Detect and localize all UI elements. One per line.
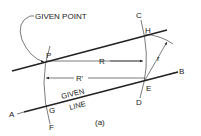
label-R: R — [99, 57, 105, 66]
label-D: D — [136, 98, 142, 107]
diagram-canvas: GIVEN POINT P R R' r C H E D B A G F GIV… — [0, 0, 201, 136]
given-point-leader — [20, 16, 44, 62]
parallel-line — [12, 30, 167, 71]
label-H: H — [145, 26, 151, 35]
leader-A — [17, 112, 24, 114]
label-given-point: GIVEN POINT — [35, 12, 87, 21]
label-C: C — [136, 11, 142, 20]
label-G: G — [49, 106, 55, 115]
label-P: P — [46, 51, 51, 60]
line-ED — [140, 82, 144, 98]
dimension-r — [145, 42, 167, 80]
label-A: A — [9, 110, 15, 119]
label-R-prime: R' — [76, 74, 84, 83]
label-F: F — [49, 123, 54, 132]
label-B: B — [179, 67, 184, 76]
construction-diagram: GIVEN POINT P R R' r C H E D B A G F GIV… — [0, 0, 201, 136]
label-given-line-2: LINE — [68, 99, 86, 112]
label-r: r — [157, 54, 160, 63]
label-E: E — [146, 84, 151, 93]
caption: (a) — [95, 118, 105, 127]
